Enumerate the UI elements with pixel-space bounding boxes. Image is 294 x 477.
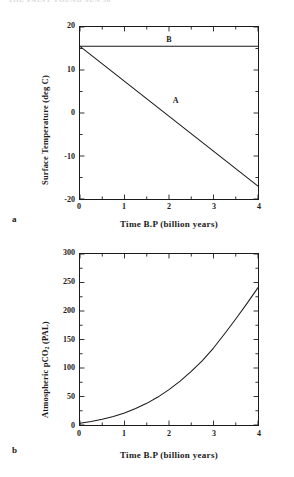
series-line-A <box>80 46 258 186</box>
x-tick-label: 0 <box>77 203 81 211</box>
chart-a-y-tick-labels: -20-1001020 <box>51 26 75 200</box>
series-label-a: A <box>173 96 179 105</box>
x-tick-label: 4 <box>257 430 261 438</box>
chart-a-plot-area: B A <box>79 26 259 200</box>
y-tick-label: 0 <box>71 422 75 430</box>
series-line-pCO2 <box>80 288 258 424</box>
y-tick-label: 150 <box>63 336 75 344</box>
panel-letter-b: b <box>12 445 17 455</box>
x-tick-label: 1 <box>122 203 126 211</box>
x-tick-label: 2 <box>167 430 171 438</box>
x-tick-label: 3 <box>212 430 216 438</box>
panel-letter-a: a <box>12 214 17 224</box>
chart-a-canvas <box>80 27 258 199</box>
figure-panel-a: B A -20-1001020 01234 Surface Temperatur… <box>0 0 294 238</box>
x-tick-label: 1 <box>122 430 126 438</box>
y-tick-label: 100 <box>63 364 75 372</box>
series-label-b: B <box>166 34 171 43</box>
x-tick-label: 3 <box>212 203 216 211</box>
x-tick-label: 0 <box>77 430 81 438</box>
y-tick-label: 250 <box>63 278 75 286</box>
chart-a-x-axis-title: Time B.P (billion years) <box>79 219 259 229</box>
chart-b-x-tick-labels: 01234 <box>0 430 294 442</box>
chart-b-y-tick-labels: 050100150200250300 <box>51 253 75 426</box>
chart-b-canvas <box>80 254 258 425</box>
y-tick-label: 20 <box>67 22 75 30</box>
y-tick-label: -10 <box>64 153 75 161</box>
y-tick-label: 50 <box>67 393 75 401</box>
chart-a-x-tick-labels: 01234 <box>0 203 294 215</box>
figure-panel-b: 050100150200250300 01234 Atmospheric pCO… <box>0 238 294 477</box>
y-tick-label: 300 <box>63 249 75 257</box>
y-tick-label: 200 <box>63 307 75 315</box>
x-tick-label: 4 <box>257 203 261 211</box>
x-tick-label: 2 <box>167 203 171 211</box>
y-tick-label: 10 <box>67 66 75 74</box>
y-tick-label: 0 <box>71 109 75 117</box>
chart-b-x-axis-title: Time B.P (billion years) <box>79 450 259 460</box>
chart-b-plot-area <box>79 253 259 426</box>
chart-b-y-axis-title: Atmospheric pCO2 (PAL) <box>40 321 50 418</box>
chart-a-y-axis-title: Surface Temperature (deg C) <box>40 75 50 185</box>
